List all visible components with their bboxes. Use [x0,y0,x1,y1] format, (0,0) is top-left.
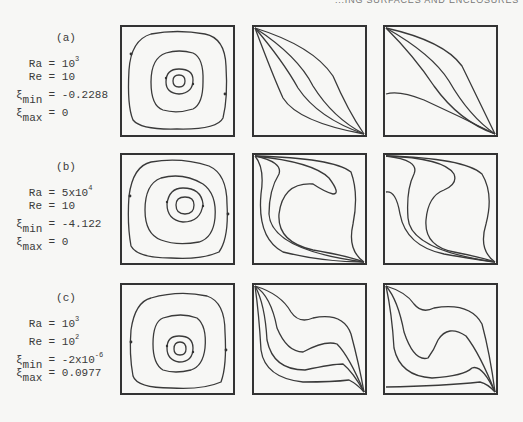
concentration-plot-c [384,284,497,394]
isotherm-contours [253,154,366,264]
concentration-contours [384,284,497,394]
case-label: (c) [0,292,112,304]
case-label: (a) [0,32,112,44]
streamlines-plot-c [121,284,234,394]
concentration-plot-b [384,154,497,264]
concentration-plot-a [384,26,497,136]
streamline-contours [121,154,234,264]
streamline-contours [121,26,234,136]
case-b-parameters: (b) Ra = 5x104 Re = 10 ξmin = -4.122 ξma… [0,161,112,251]
xi-max: ξmax = 0 [0,233,112,251]
rayleigh-number: Ra = 103 [0,310,112,328]
isotherms-plot-b [253,154,366,264]
running-header: ...ING SURFACES AND ENCLOSURES [335,0,519,5]
isotherms-plot-c [253,284,366,394]
streamline-contours [121,284,234,394]
reynolds-number: Re = 10 [0,68,112,86]
xi-min: ξmin = -4.122 [0,215,112,233]
isotherm-contours [253,284,366,394]
rayleigh-number: Ra = 103 [0,50,112,68]
case-a-parameters: (a) Ra = 103 Re = 10 ξmin = -0.2288 ξmax… [0,32,112,122]
streamlines-plot-a [121,26,234,136]
concentration-contours [384,154,497,264]
xi-min: ξmin = -2x10-6 [0,346,112,364]
case-label: (b) [0,161,112,173]
rayleigh-number: Ra = 5x104 [0,179,112,197]
xi-max: ξmax = 0.0977 [0,364,112,382]
case-c-parameters: (c) Ra = 103 Re = 102 ξmin = -2x10-6 ξma… [0,292,112,382]
reynolds-number: Re = 10 [0,197,112,215]
isotherms-plot-a [253,26,366,136]
streamlines-plot-b [121,154,234,264]
xi-min: ξmin = -0.2288 [0,86,112,104]
concentration-contours [384,26,497,136]
reynolds-number: Re = 102 [0,328,112,346]
isotherm-contours [253,26,366,136]
xi-max: ξmax = 0 [0,104,112,122]
